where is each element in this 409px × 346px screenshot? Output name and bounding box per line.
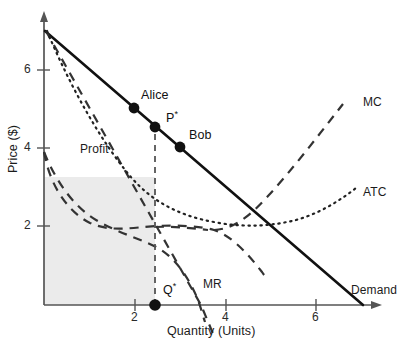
q-star-asterisk: * [173, 281, 177, 291]
q-star-point-label: Q* [163, 284, 176, 297]
y-axis-title-wrap: Price ($) [3, 119, 21, 179]
y-tick-label-6: 6 [24, 63, 31, 75]
x-tick-label-4: 4 [222, 311, 229, 323]
p-star-point-label: P* [166, 112, 178, 125]
alice-point-label: Alice [141, 89, 169, 102]
x-axis-arrow-icon [371, 301, 382, 309]
x-axis-title: Quantity (Units) [167, 325, 255, 338]
economics-monopoly-chart: Price ($) Quantity (Units) 6 4 2 2 4 6 A… [0, 0, 409, 346]
chart-canvas [0, 0, 409, 346]
q-star-point-marker[interactable] [149, 299, 161, 311]
p-star-asterisk: * [174, 109, 178, 119]
profit-shaded-region [44, 177, 155, 305]
mr-series-label: MR [203, 278, 222, 290]
q-star-letter: Q [163, 283, 173, 297]
mc-series-label: MC [363, 96, 382, 108]
x-tick-label-2: 2 [131, 311, 138, 323]
y-tick-label-2: 2 [24, 219, 31, 231]
y-axis-arrow-icon [40, 11, 48, 22]
atc-series-label: ATC [363, 186, 386, 198]
y-axis-title: Price ($) [6, 125, 20, 173]
x-tick-label-6: 6 [312, 311, 319, 323]
bob-point-marker[interactable] [175, 142, 186, 153]
y-tick-label-4: 4 [24, 141, 31, 153]
demand-series-label: Demand [351, 284, 397, 296]
bob-point-label: Bob [189, 129, 212, 142]
mc-curve-rising [214, 104, 343, 230]
profit-region-label: Profit [80, 143, 109, 155]
p-star-point-marker[interactable] [150, 122, 161, 133]
alice-point-marker[interactable] [129, 103, 140, 114]
